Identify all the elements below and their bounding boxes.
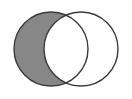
venn-diagram-figure bbox=[0, 0, 132, 99]
venn-diagram-canvas bbox=[0, 0, 132, 99]
